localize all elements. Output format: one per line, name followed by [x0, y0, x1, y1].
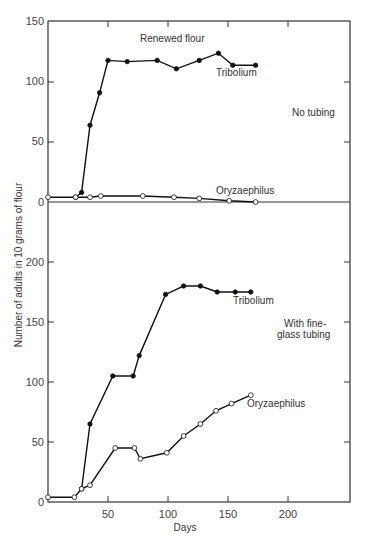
- upper-oryzaephilus-line: [48, 196, 256, 202]
- data-point-marker: [231, 63, 235, 67]
- data-point-marker: [227, 198, 232, 203]
- ytick-label: 150: [26, 15, 44, 27]
- y-axis-title: Number of adults in 10 grams of flour: [13, 182, 24, 347]
- data-point-marker: [214, 408, 219, 413]
- data-point-marker: [253, 63, 257, 67]
- lower-y-tick-labels: 200 150 100 50 0: [26, 256, 44, 508]
- data-point-marker: [198, 284, 202, 288]
- data-point-marker: [46, 495, 51, 500]
- lower-oryzaephilus-label: Oryzaephilus: [247, 398, 305, 409]
- x-axis-title: Days: [174, 522, 197, 533]
- data-point-marker: [125, 59, 129, 63]
- ytick-label: 150: [26, 316, 44, 328]
- data-point-marker: [79, 190, 83, 194]
- data-point-marker: [72, 495, 77, 500]
- data-point-marker: [88, 195, 93, 200]
- data-point-marker: [155, 58, 159, 62]
- data-point-marker: [88, 422, 92, 426]
- xtick-label: 200: [279, 508, 297, 520]
- population-chart: 150 100 50 0 200 150 100 50 0 50 100 150…: [0, 0, 365, 539]
- ytick-label: 0: [38, 196, 44, 208]
- data-point-marker: [79, 486, 84, 491]
- data-point-marker: [131, 374, 135, 378]
- data-point-marker: [111, 374, 115, 378]
- data-point-marker: [249, 290, 253, 294]
- data-point-marker: [138, 456, 143, 461]
- ytick-label: 50: [32, 135, 44, 147]
- ytick-label: 0: [38, 496, 44, 508]
- ytick-label: 50: [32, 436, 44, 448]
- data-point-marker: [181, 434, 186, 439]
- lower-tribolium-line: [82, 286, 251, 489]
- data-point-marker: [113, 446, 118, 451]
- upper-annotation: No tubing: [292, 107, 335, 118]
- data-point-marker: [229, 401, 234, 406]
- data-point-marker: [137, 353, 141, 357]
- data-point-marker: [198, 422, 203, 427]
- axis-ticks: [48, 21, 350, 502]
- data-point-marker: [88, 123, 92, 127]
- ytick-label: 100: [26, 75, 44, 87]
- data-point-marker: [253, 200, 258, 205]
- ytick-label: 100: [26, 376, 44, 388]
- xtick-label: 150: [219, 508, 237, 520]
- data-point-marker: [132, 446, 137, 451]
- data-point-marker: [216, 51, 220, 55]
- data-point-marker: [163, 292, 167, 296]
- axes-frame: [48, 21, 350, 502]
- lower-oryzaephilus-line: [48, 395, 251, 497]
- lower-annotation-line2: glass tubing: [277, 329, 330, 340]
- data-point-marker: [88, 483, 93, 488]
- x-tick-labels: 50 100 150 200: [102, 508, 297, 520]
- lower-tribolium-label: Tribolium: [233, 295, 274, 306]
- data-point-marker: [248, 393, 253, 398]
- upper-tribolium-label: Tribolium: [216, 67, 257, 78]
- data-point-marker: [164, 450, 169, 455]
- data-point-marker: [46, 195, 51, 200]
- data-point-marker: [106, 58, 110, 62]
- xtick-label: 100: [159, 508, 177, 520]
- data-point-marker: [73, 195, 78, 200]
- data-series: [46, 51, 258, 500]
- data-point-marker: [140, 194, 145, 199]
- data-point-marker: [172, 195, 177, 200]
- data-point-marker: [197, 58, 201, 62]
- data-point-marker: [174, 67, 178, 71]
- upper-panel-title: Renewed flour: [140, 33, 205, 44]
- data-point-marker: [215, 290, 219, 294]
- data-point-marker: [197, 196, 202, 201]
- data-point-marker: [233, 290, 237, 294]
- data-point-marker: [97, 91, 101, 95]
- data-point-marker: [98, 194, 103, 199]
- xtick-label: 50: [102, 508, 114, 520]
- upper-oryzaephilus-label: Oryzaephilus: [216, 185, 274, 196]
- ytick-label: 200: [26, 256, 44, 268]
- upper-y-tick-labels: 150 100 50 0: [26, 15, 44, 208]
- lower-annotation-line1: With fine-: [284, 318, 326, 329]
- data-point-marker: [181, 284, 185, 288]
